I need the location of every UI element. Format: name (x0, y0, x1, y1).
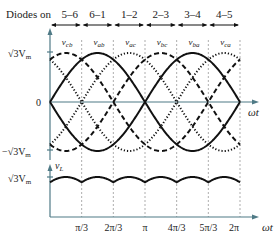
x-tick-label: 2π/3 (104, 222, 122, 233)
x-tick-label: 4π/3 (168, 222, 186, 233)
x-tick-label: π/3 (75, 222, 88, 233)
curve-label-vcb: vcb (62, 37, 73, 49)
arrow-left-icon (83, 23, 88, 27)
bottom-x-axis-label: ωt (262, 221, 274, 233)
arrow-left-icon (114, 23, 119, 27)
diode-interval-arrows (51, 23, 239, 27)
interval-label: 3–4 (184, 8, 201, 20)
arrow-right-icon (139, 23, 144, 27)
arrow-right-icon (234, 23, 239, 27)
x-tick-label: π (142, 222, 147, 233)
top-zero-label: 0 (36, 97, 41, 108)
arrow-left-icon (51, 23, 56, 27)
interval-label: 1–2 (121, 8, 138, 20)
interval-label: 6–1 (89, 8, 106, 20)
top-ymax-label: √3Vm (8, 48, 32, 61)
curve-label-vba: vba (189, 37, 201, 49)
top-y-axis-arrow-icon (48, 28, 53, 35)
curve-label-vac: vac (125, 37, 136, 49)
arrow-right-icon (107, 23, 112, 27)
curve-label-vbc: vbc (157, 37, 169, 49)
three-phase-rectifier-waveform-diagram: Diodes on 5–66–11–22–33–44–5 √3Vm 0 −√3V… (0, 0, 280, 236)
diode-interval-labels: 5–66–11–22–33–44–5 (62, 8, 233, 20)
arrow-left-icon (178, 23, 183, 27)
bottom-y-axis-label: vL (55, 160, 63, 173)
x-tick-label: 2π (229, 222, 239, 233)
bottom-x-axis-arrow-icon (252, 215, 259, 220)
arrow-left-icon (209, 23, 214, 27)
x-tick-labels: π/32π/3π4π/35π/32π (75, 222, 239, 233)
arrow-right-icon (171, 23, 176, 27)
interval-label: 5–6 (62, 8, 79, 20)
interval-label: 2–3 (153, 8, 170, 20)
top-ymin-label: −√3Vm (2, 146, 31, 159)
arrow-left-icon (146, 23, 151, 27)
top-x-axis-label: ωt (248, 106, 260, 118)
curve-label-vca: vca (220, 37, 231, 49)
bottom-ymax-label: √3Vm (8, 173, 32, 186)
x-tick-label: 5π/3 (199, 222, 217, 233)
bottom-y-axis-arrow-icon (48, 164, 53, 171)
curve-label-vab: vab (94, 37, 106, 49)
line-voltage-labels: vcbvabvacvbcvbavca (62, 37, 231, 49)
arrow-right-icon (202, 23, 207, 27)
diodes-on-label: Diodes on (6, 8, 51, 20)
arrow-right-icon (76, 23, 81, 27)
top-x-axis-arrow-icon (252, 100, 259, 105)
interval-label: 4–5 (216, 8, 233, 20)
